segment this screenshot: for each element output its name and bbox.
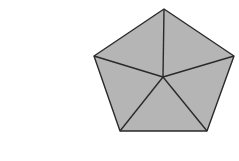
pentagon-diagram: [0, 0, 239, 161]
spoke-line-1: [163, 9, 164, 77]
